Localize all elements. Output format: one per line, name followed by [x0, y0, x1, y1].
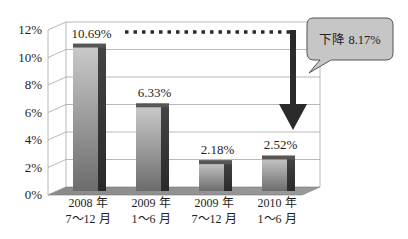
category-label-months: 7～12 月 — [66, 212, 111, 226]
y-tick-label: 12% — [18, 22, 42, 37]
bar-4 — [262, 155, 295, 191]
category-label-year: 2010 年 — [258, 196, 297, 210]
bar-top-face — [73, 44, 106, 48]
y-tick-label: 2% — [25, 160, 43, 175]
bar-value-label: 2.52% — [264, 137, 298, 152]
bar-front-face — [262, 156, 287, 191]
axis-tick — [48, 160, 66, 168]
category-label-months: 1～6 月 — [132, 212, 171, 226]
bar-side-face — [224, 161, 232, 191]
bar-1 — [73, 44, 106, 191]
axis-tick — [48, 77, 66, 85]
axis-tick — [48, 105, 66, 113]
bar-front-face — [199, 161, 224, 191]
bar-front-face — [136, 104, 161, 191]
category-label-year: 2009 年 — [195, 196, 234, 210]
category-label-months: 1～6 月 — [258, 212, 297, 226]
bar-2 — [136, 103, 169, 191]
bar-value-label: 6.33% — [138, 85, 172, 100]
bar-front-face — [73, 45, 98, 191]
down-arrow-icon — [279, 104, 307, 130]
y-tick-label: 4% — [25, 132, 43, 147]
axis-tick — [48, 50, 66, 58]
bar-side-face — [98, 45, 106, 191]
category-label-year: 2008 年 — [69, 196, 108, 210]
callout-text: 下降 8.17% — [319, 33, 380, 47]
bar-value-label: 2.18% — [201, 142, 235, 157]
axis-tick — [48, 22, 66, 30]
decline-bar-chart: 0%2%4%6%8%10%12%10.69%2008 年7～12 月6.33%2… — [0, 0, 408, 239]
bar-top-face — [262, 155, 295, 159]
category-label-months: 7～12 月 — [192, 212, 237, 226]
arrow-shaft — [290, 30, 296, 105]
y-tick-label: 10% — [18, 50, 42, 65]
bar-3 — [199, 160, 232, 191]
bar-top-face — [136, 103, 169, 107]
axis-tick — [48, 132, 66, 140]
y-tick-label: 0% — [25, 187, 43, 202]
bar-value-label: 10.69% — [71, 26, 111, 41]
category-label-year: 2009 年 — [132, 196, 171, 210]
bar-top-face — [199, 160, 232, 164]
bar-side-face — [161, 104, 169, 191]
bar-side-face — [287, 156, 295, 191]
y-tick-label: 8% — [25, 77, 43, 92]
y-tick-label: 6% — [25, 105, 43, 120]
chart-bars — [73, 44, 295, 191]
